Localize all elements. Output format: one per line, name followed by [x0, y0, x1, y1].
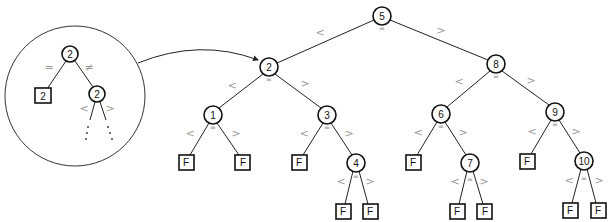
- tree-node-3: 3: [318, 106, 336, 124]
- svg-text:F: F: [595, 205, 601, 216]
- svg-text:>: >: [571, 125, 580, 138]
- fail-leaf: F: [591, 203, 606, 218]
- inset-less-label: <: [79, 102, 88, 115]
- svg-text:>: >: [458, 126, 467, 139]
- fail-leaf: F: [292, 155, 307, 170]
- svg-text:F: F: [482, 206, 488, 217]
- svg-text:>: >: [479, 175, 488, 188]
- inset-ellipsis-left: [85, 126, 89, 140]
- svg-text:>: >: [365, 175, 374, 188]
- zoom-arrow: [138, 50, 258, 63]
- svg-text:=: =: [493, 73, 499, 81]
- svg-text:<: <: [315, 26, 324, 39]
- svg-text:=: =: [552, 121, 558, 129]
- svg-text:<: <: [527, 125, 536, 138]
- tree-node-1: 1: [204, 106, 222, 124]
- svg-text:<: <: [413, 126, 422, 139]
- svg-text:2: 2: [67, 49, 73, 60]
- svg-text:2: 2: [266, 62, 272, 73]
- svg-text:8: 8: [493, 59, 499, 70]
- svg-text:9: 9: [552, 107, 558, 118]
- tree-node-4: 4: [347, 154, 365, 172]
- svg-text:F: F: [240, 157, 246, 168]
- svg-text:F: F: [454, 206, 460, 217]
- svg-text:10: 10: [578, 156, 590, 167]
- inset-edge-less: [90, 102, 95, 120]
- inset-top-node: 2: [62, 46, 78, 62]
- tree-edges: [190, 20, 596, 204]
- tree-node-10: 10: [575, 152, 593, 170]
- fail-leaf: F: [563, 203, 578, 218]
- tree-node-8: 8: [487, 55, 505, 73]
- svg-text:>: >: [594, 174, 603, 187]
- svg-text:>: >: [231, 127, 240, 140]
- inset-not-equal-node: 2: [89, 86, 105, 102]
- svg-text:F: F: [367, 206, 373, 217]
- svg-text:>: >: [436, 24, 445, 37]
- svg-text:5: 5: [379, 11, 385, 22]
- inset-magnifier: = ≠ < > 2 2 2: [5, 26, 145, 166]
- svg-text:=: =: [581, 175, 587, 183]
- tree-node-9: 9: [546, 103, 564, 121]
- svg-text:F: F: [296, 157, 302, 168]
- fail-leaf: F: [363, 204, 378, 219]
- tree-node-5: 5: [373, 7, 391, 25]
- svg-text:F: F: [524, 156, 530, 167]
- svg-text:<: <: [564, 174, 573, 187]
- svg-text:>: >: [344, 127, 353, 140]
- svg-text:<: <: [227, 79, 236, 92]
- bst-diagram: = ≠ < > 2 2 2: [0, 0, 613, 222]
- svg-text:=: =: [324, 124, 330, 132]
- svg-text:3: 3: [324, 110, 330, 121]
- svg-text:=: =: [379, 25, 385, 33]
- tree-node-7: 7: [461, 154, 479, 172]
- svg-text:<: <: [450, 175, 459, 188]
- inset-equal-leaf: 2: [35, 88, 51, 103]
- svg-text:2: 2: [94, 89, 100, 100]
- svg-text:=: =: [353, 173, 359, 181]
- svg-text:>: >: [526, 74, 535, 87]
- fail-leaf: F: [336, 204, 351, 219]
- fail-leaf: F: [406, 155, 421, 170]
- inset-equal-label: =: [44, 61, 53, 74]
- svg-text:4: 4: [353, 158, 359, 169]
- fail-leaf: F: [477, 204, 492, 219]
- svg-text:1: 1: [210, 110, 216, 121]
- svg-text:=: =: [467, 176, 473, 184]
- svg-text:F: F: [410, 157, 416, 168]
- tree-node-2: 2: [260, 58, 278, 76]
- svg-text:=: =: [438, 123, 444, 131]
- fail-leaf: F: [520, 154, 535, 169]
- svg-text:6: 6: [438, 109, 444, 120]
- inset-ellipsis-right: [107, 126, 113, 140]
- svg-text:F: F: [567, 205, 573, 216]
- svg-text:>: >: [300, 77, 309, 90]
- svg-text:2: 2: [40, 91, 46, 102]
- tree-node-6: 6: [432, 105, 450, 123]
- inset-greater-label: >: [105, 102, 114, 115]
- svg-text:F: F: [340, 206, 346, 217]
- svg-text:F: F: [183, 157, 189, 168]
- inset-not-equal-label: ≠: [84, 61, 93, 74]
- fail-leaf: F: [450, 204, 465, 219]
- fail-leaf: F: [179, 155, 194, 170]
- svg-text:<: <: [185, 127, 194, 140]
- svg-text:7: 7: [467, 158, 473, 169]
- svg-text:=: =: [210, 124, 216, 132]
- svg-text:<: <: [454, 75, 463, 88]
- svg-text:<: <: [336, 175, 345, 188]
- svg-text:<: <: [299, 127, 308, 140]
- svg-text:=: =: [266, 76, 272, 84]
- fail-leaf: F: [235, 155, 250, 170]
